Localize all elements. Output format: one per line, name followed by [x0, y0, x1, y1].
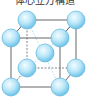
atom-center	[36, 44, 54, 62]
atom-back-bottom-right	[67, 59, 85, 77]
atom-back-top-left	[18, 11, 36, 29]
atom-front-bottom-right	[51, 78, 69, 96]
atom-front-top-right	[51, 29, 69, 47]
bcc-lattice-diagram	[0, 0, 89, 100]
atoms	[2, 11, 85, 96]
atom-back-bottom-left	[18, 59, 36, 77]
atom-front-top-left	[2, 29, 20, 47]
atom-back-top-right	[67, 11, 85, 29]
atom-front-bottom-left	[2, 78, 20, 96]
